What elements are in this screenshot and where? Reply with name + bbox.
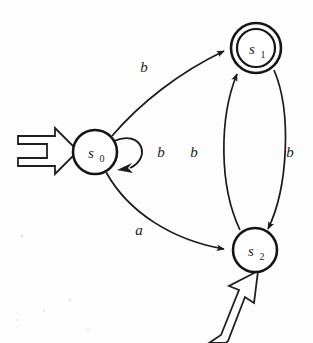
- transition-s1-to-s2-path: [268, 70, 285, 229]
- transition-label-s1-s2: b: [286, 144, 294, 160]
- transition-label-s0-s2: a: [135, 222, 143, 238]
- transition-label-s0-s1: b: [140, 59, 148, 75]
- transition-s2-to-s1[interactable]: b: [190, 74, 240, 230]
- transition-s0-to-s2[interactable]: a: [106, 172, 224, 249]
- start-arrow-s0-shape: [18, 128, 78, 174]
- self-loop-s0[interactable]: b: [114, 138, 165, 173]
- state-s2-label: s: [248, 243, 254, 259]
- start-arrow-s0: [18, 128, 78, 174]
- state-s1-subscript: 1: [261, 49, 266, 60]
- automaton-svg: b a b b b: [0, 0, 313, 343]
- transition-label-s2-s1: b: [190, 144, 198, 160]
- transition-s1-to-s2[interactable]: b: [268, 70, 294, 229]
- automaton-diagram-canvas: b a b b b: [0, 0, 313, 343]
- state-s1-label: s: [249, 41, 255, 57]
- state-s2-subscript: 2: [260, 251, 265, 262]
- transition-s2-to-s1-path: [224, 74, 240, 230]
- transition-s0-to-s1-path: [112, 51, 224, 136]
- state-s1-inner-circle: [237, 29, 275, 67]
- state-s0-subscript: 0: [100, 153, 105, 164]
- start-arrow-s2-shape-outline: [209, 271, 258, 343]
- state-s0-label: s: [88, 145, 94, 161]
- state-s1[interactable]: s 1: [231, 23, 281, 73]
- state-s0[interactable]: s 0: [73, 130, 117, 174]
- state-s0-circle: [73, 130, 117, 174]
- transition-s0-to-s1[interactable]: b: [112, 51, 224, 136]
- state-s2[interactable]: s 2: [233, 228, 277, 272]
- start-arrow-s2: [209, 271, 258, 343]
- transition-s0-to-s2-path: [106, 172, 224, 249]
- state-s2-circle: [233, 228, 277, 272]
- transition-label-s0-self: b: [157, 144, 165, 160]
- paper-texture: [16, 234, 89, 331]
